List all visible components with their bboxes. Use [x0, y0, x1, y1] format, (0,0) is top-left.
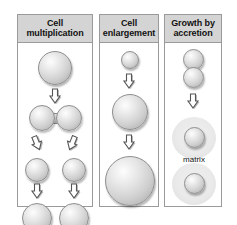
arrow-down-icon	[186, 93, 200, 110]
cell-in-matrix-top	[184, 127, 205, 148]
dumbbell-lobe-left	[29, 105, 55, 131]
cell-grown-left	[22, 203, 52, 225]
cell-daughter-left	[25, 158, 49, 182]
cell-growth-diagram: Cell multiplication	[0, 0, 237, 225]
cell-grown-right	[59, 203, 89, 225]
arrow-down-icon-1	[122, 73, 136, 90]
arrow-down-icon-right	[67, 183, 81, 200]
panel-body-cell-multiplication	[18, 43, 92, 206]
panel-cell-multiplication: Cell multiplication	[17, 14, 93, 207]
panel-title-line2: accretion	[173, 28, 212, 38]
arrow-down-icon-2	[122, 134, 136, 151]
panel-body-cell-enlargement	[100, 43, 158, 206]
cell-daughter-right	[62, 158, 86, 182]
cell-parent	[38, 51, 72, 85]
panel-title-cell-enlargement: Cell enlargement	[100, 15, 158, 43]
panel-title-cell-multiplication: Cell multiplication	[18, 15, 92, 43]
arrow-down-left-icon	[27, 133, 46, 154]
arrow-down-icon-left	[30, 183, 44, 200]
panel-title-line2: enlargement	[103, 28, 155, 38]
panel-title-line1: Growth by	[171, 18, 215, 28]
cell-small	[121, 51, 139, 69]
panel-title-line1: Cell	[47, 18, 63, 28]
cell-accretion-bottom	[183, 67, 204, 88]
panel-body-growth-by-accretion: matrix	[165, 43, 221, 206]
cell-medium	[112, 94, 148, 130]
cell-large	[105, 156, 155, 206]
cell-dividing	[29, 105, 82, 132]
panel-growth-by-accretion: Growth by accretion matrix	[164, 14, 222, 207]
cell-in-matrix-bottom	[184, 173, 205, 194]
panel-title-line2: multiplication	[26, 28, 83, 38]
arrow-down-icon	[48, 88, 62, 105]
arrow-down-right-icon	[62, 133, 81, 154]
dumbbell-lobe-right	[56, 105, 82, 131]
panel-cell-enlargement: Cell enlargement	[99, 14, 159, 207]
panel-title-growth-by-accretion: Growth by accretion	[165, 15, 221, 43]
panel-title-line1: Cell	[121, 18, 137, 28]
